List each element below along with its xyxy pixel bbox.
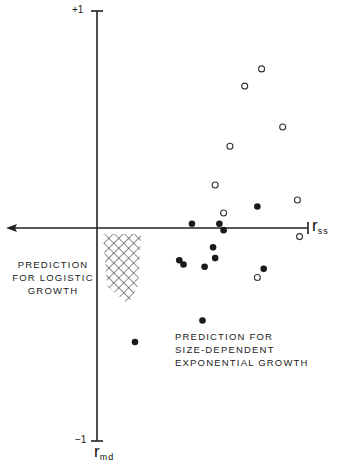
exponential-annotation: PREDICTION FOR SIZE-DEPENDENT EXPONENTIA… xyxy=(175,330,309,369)
filled-data-point xyxy=(180,261,187,268)
y-tick-bottom: −1 xyxy=(75,434,86,445)
open-data-point xyxy=(297,234,303,240)
filled-data-point xyxy=(216,220,223,227)
open-data-point xyxy=(242,83,248,89)
x-axis-label: rss xyxy=(312,216,329,236)
logistic-prediction-region xyxy=(103,234,141,304)
filled-data-point xyxy=(220,227,227,234)
filled-data-point xyxy=(254,203,261,210)
open-data-point xyxy=(259,66,265,72)
open-data-point xyxy=(221,210,227,216)
open-data-point xyxy=(280,124,286,130)
filled-data-point xyxy=(189,220,196,227)
scatter-plot xyxy=(0,0,343,464)
open-data-point xyxy=(254,274,260,280)
filled-data-point xyxy=(201,263,208,270)
logistic-annotation: PREDICTION FOR LOGISTIC GROWTH xyxy=(12,258,94,297)
open-data-point xyxy=(294,197,300,203)
filled-data-point xyxy=(210,244,217,251)
filled-data-point xyxy=(199,317,206,324)
filled-data-point xyxy=(132,339,139,346)
y-axis-label: rmd xyxy=(94,442,114,462)
open-data-point xyxy=(212,182,218,188)
filled-data-point xyxy=(260,266,267,273)
filled-data-point xyxy=(212,255,219,262)
y-tick-top: +1 xyxy=(72,4,83,15)
open-data-point xyxy=(227,143,233,149)
